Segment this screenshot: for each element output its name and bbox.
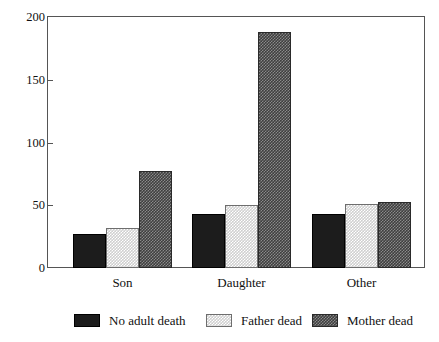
y-axis-tick-label: 0 <box>5 262 45 275</box>
bar-chart: 200150100500 No adult deathFather deadMo… <box>0 0 439 342</box>
bar <box>345 204 378 268</box>
bar <box>312 214 345 268</box>
bar <box>192 214 225 268</box>
legend-swatch <box>312 314 338 327</box>
legend-item: Father dead <box>206 311 302 329</box>
legend-item: Mother dead <box>312 311 413 329</box>
legend-item: No adult death <box>74 311 186 329</box>
bar <box>73 234 106 268</box>
y-axis-tick-mark <box>47 143 53 144</box>
y-axis-tick-label: 50 <box>5 199 45 212</box>
legend-label: Father dead <box>241 314 302 327</box>
bars-layer <box>48 17 424 268</box>
y-axis-tick-mark <box>47 80 53 81</box>
y-axis-tick-label: 100 <box>5 137 45 150</box>
bar <box>225 205 258 268</box>
legend-label: Mother dead <box>347 314 413 327</box>
y-axis-tick-label: 150 <box>5 74 45 87</box>
y-axis: 200150100500 <box>0 0 45 342</box>
bar <box>139 171 172 268</box>
x-axis-category-label: Other <box>282 275 439 291</box>
legend-label: No adult death <box>109 314 186 327</box>
legend-swatch <box>206 314 232 327</box>
bar <box>378 202 411 269</box>
y-axis-tick-label: 200 <box>5 11 45 24</box>
legend-swatch <box>74 314 100 327</box>
bar <box>258 32 291 268</box>
bar <box>106 228 139 268</box>
y-axis-tick-mark <box>47 205 53 206</box>
chart-legend: No adult deathFather deadMother dead <box>0 311 439 333</box>
